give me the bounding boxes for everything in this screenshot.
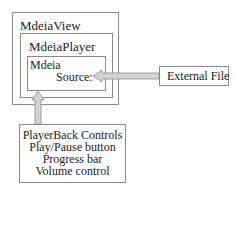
- arrow-external-to-source-icon: [93, 70, 159, 82]
- arrow-controls-to-mdeia-icon: [32, 91, 44, 124]
- controls-line-4: Volume control: [19, 165, 126, 178]
